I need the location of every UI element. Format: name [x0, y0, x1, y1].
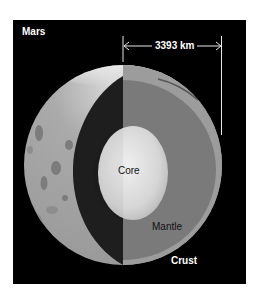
- crust-label: Crust: [171, 256, 197, 266]
- diagram-title: Mars: [22, 27, 45, 37]
- mantle-label: Mantle: [152, 222, 182, 232]
- core-label: Core: [118, 166, 140, 176]
- mars-cross-section: [0, 0, 256, 292]
- dimension-label: 3393 km: [152, 41, 197, 51]
